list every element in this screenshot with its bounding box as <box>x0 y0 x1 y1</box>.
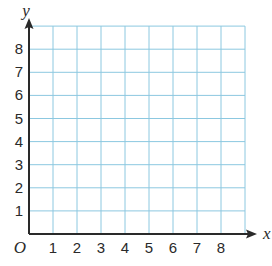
y-axis-label: y <box>20 1 30 20</box>
y-tick-label: 7 <box>15 63 23 80</box>
grid-lines <box>29 26 245 234</box>
y-tick-label: 2 <box>15 179 23 196</box>
x-tick-label: 8 <box>217 239 225 256</box>
x-tick-label: 2 <box>73 239 81 256</box>
x-tick-label: 5 <box>145 239 153 256</box>
x-axis-label: x <box>262 224 271 243</box>
x-tick-label: 3 <box>97 239 105 256</box>
y-tick-label: 4 <box>15 133 23 150</box>
x-tick-label: 7 <box>193 239 201 256</box>
y-tick-label: 6 <box>15 86 23 103</box>
tick-labels: 1234567812345678xyO <box>14 1 271 257</box>
axes <box>25 18 258 238</box>
y-tick-label: 8 <box>15 40 23 57</box>
y-tick-label: 5 <box>15 110 23 127</box>
y-tick-label: 1 <box>15 202 23 219</box>
coordinate-grid: 1234567812345678xyO <box>0 0 272 266</box>
x-tick-label: 6 <box>169 239 177 256</box>
x-tick-label: 4 <box>121 239 129 256</box>
y-tick-label: 3 <box>15 156 23 173</box>
origin-label: O <box>14 238 26 257</box>
x-tick-label: 1 <box>49 239 57 256</box>
